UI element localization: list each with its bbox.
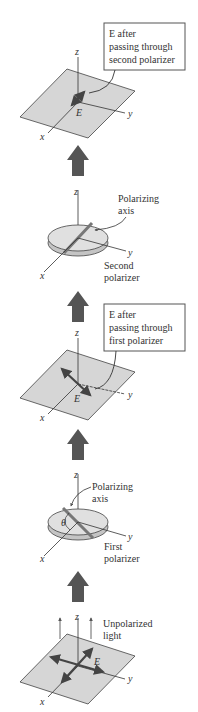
x-axis-label: x: [39, 131, 45, 142]
callout-line-3: first polarizer: [109, 335, 164, 346]
propagation-arrow-1: [67, 145, 89, 176]
e-label: E: [73, 393, 80, 404]
callout-line-2: passing through: [109, 322, 173, 333]
x-axis-label: x: [39, 696, 45, 707]
theta-label: θ: [61, 517, 66, 528]
stage-after-second: z y x E E after passing through second p…: [20, 23, 185, 142]
z-axis-label: z: [74, 327, 79, 338]
stage-first-polarizer: θ z y x Polarizing axis First polarizer: [39, 469, 140, 564]
label-line-1: Unpolarized: [103, 618, 152, 629]
propagation-arrow-2: [67, 291, 89, 322]
axis-label-1: Polarizing: [92, 481, 133, 492]
plane: [20, 69, 135, 138]
callout-line-1: E after: [109, 309, 137, 320]
polarizer-diagram: z y x E E after passing through second p…: [0, 0, 198, 712]
name-line-2: polarizer: [104, 272, 140, 283]
callout-line-1: E after: [109, 28, 137, 39]
y-axis-label: y: [127, 247, 133, 258]
callout-line-2: passing through: [109, 41, 173, 52]
axis-label-2: axis: [92, 493, 108, 504]
z-axis-label: z: [73, 186, 78, 197]
y-axis-label: y: [127, 673, 133, 684]
name-line-1: Second: [104, 260, 133, 271]
x-axis-label: x: [39, 270, 45, 281]
propagation-arrow-3: [67, 429, 89, 460]
stage-unpolarized: z y x E Unpolarized light: [20, 611, 152, 707]
z-axis-label: z: [74, 46, 79, 57]
z-axis-label: z: [74, 611, 79, 622]
x-axis-label: x: [39, 553, 45, 564]
name-line-2: polarizer: [104, 553, 140, 564]
e-label: E: [93, 656, 100, 667]
y-axis-label: y: [127, 108, 133, 119]
z-axis-label: z: [73, 469, 78, 480]
axis-label-2: axis: [118, 205, 134, 216]
label-line-2: light: [103, 630, 122, 641]
e-label: E: [75, 107, 82, 118]
y-axis-label: y: [127, 389, 133, 400]
stage-second-polarizer: z y x Polarizing axis Second polarizer: [39, 186, 159, 283]
axis-label-1: Polarizing: [118, 193, 159, 204]
callout-line-3: second polarizer: [109, 54, 175, 65]
x-axis-label: x: [39, 412, 45, 423]
name-line-1: First: [104, 541, 123, 552]
propagation-arrow-4: [67, 571, 89, 602]
stage-after-first: z y x E E after passing through first po…: [20, 304, 185, 423]
y-axis-label: y: [127, 531, 133, 542]
